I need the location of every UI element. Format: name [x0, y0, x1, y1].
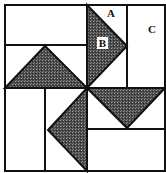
- label-b: B: [99, 37, 107, 49]
- quilt-block-diagram: A B C: [0, 0, 166, 173]
- label-c: C: [148, 23, 156, 35]
- label-a: A: [107, 7, 115, 19]
